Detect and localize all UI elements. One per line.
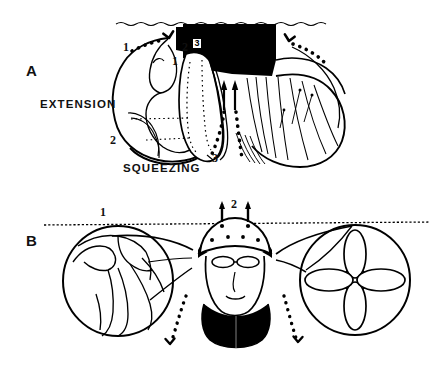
- eye-left: [212, 257, 234, 268]
- eye-right: [237, 257, 259, 268]
- lower-dotted-track-left: [172, 296, 186, 340]
- panel-b-callout-2: 2: [231, 198, 237, 210]
- panel-b-artwork: [0, 0, 441, 368]
- rosette-petal-right: [357, 269, 405, 291]
- rosette-petal-bottom: [344, 282, 366, 330]
- lower-dotted-track-right: [284, 296, 296, 338]
- figure-root: A EXTENSION SQUEEZING 1 2 1 2 3 3: [0, 0, 441, 368]
- panel-b-letter: B: [26, 233, 37, 248]
- rosette-petal-left: [305, 269, 353, 291]
- rosette-petal-top: [344, 230, 366, 278]
- panel-b-callout-1: 1: [100, 206, 106, 218]
- lower-chevron-right: [294, 337, 303, 343]
- lower-chevron-left: [166, 339, 175, 345]
